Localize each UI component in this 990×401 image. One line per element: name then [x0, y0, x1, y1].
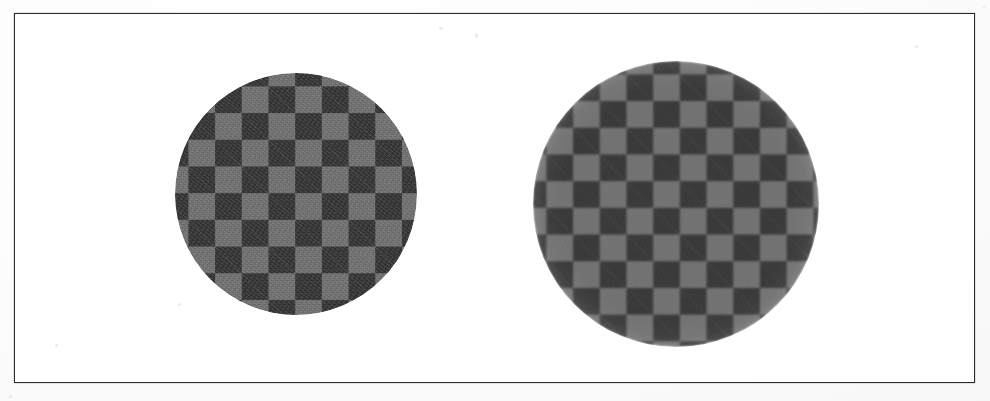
figure-frame — [14, 13, 975, 383]
hard-aperture-checker-fill — [175, 73, 417, 315]
scan-speck — [439, 27, 443, 30]
scan-speck — [983, 6, 985, 8]
figure-root — [0, 0, 990, 401]
scan-speck — [475, 33, 478, 38]
scan-speck — [55, 344, 58, 347]
scan-speck — [9, 395, 12, 398]
soft-aperture-disc — [533, 61, 819, 347]
figure-plot-area — [15, 14, 974, 382]
scan-grain-highlight-overlay — [533, 61, 819, 347]
scan-speck — [915, 45, 918, 48]
hard-aperture-disc — [175, 73, 417, 315]
soft-aperture-checker-fill — [533, 61, 819, 347]
scan-grain-highlight-overlay — [175, 73, 417, 315]
